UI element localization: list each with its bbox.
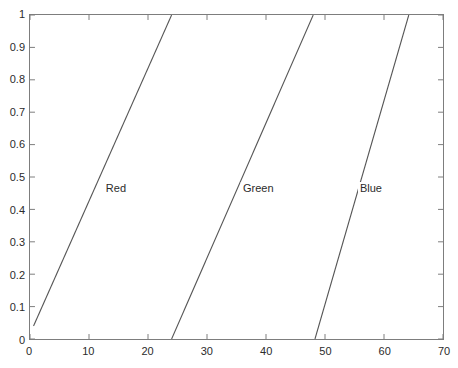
x-tick-label: 60 [379, 345, 391, 357]
x-tick-label: 30 [201, 345, 213, 357]
x-tick-label: 70 [438, 345, 450, 357]
series-label-green: Green [241, 182, 276, 194]
series-lines [34, 15, 409, 339]
y-tick-label: 0.3 [1, 236, 25, 248]
chart-figure: 00.10.20.30.40.50.60.70.80.91 RedGreenBl… [0, 0, 458, 368]
x-tick-label: 0 [26, 345, 32, 357]
y-tick-label: 0.8 [1, 73, 25, 85]
y-tick-label: 0.2 [1, 269, 25, 281]
chart-title [0, 0, 458, 4]
series-line-red [34, 15, 172, 326]
series-label-blue: Blue [358, 182, 384, 194]
series-label-red: Red [104, 182, 128, 194]
y-tick-label: 0.1 [1, 301, 25, 313]
y-tick-label: 0 [1, 334, 25, 346]
y-tick-label: 0.5 [1, 171, 25, 183]
x-tick-label: 10 [82, 345, 94, 357]
y-tick-label: 1 [1, 8, 25, 20]
series-line-green [172, 15, 314, 339]
x-tick-label: 40 [260, 345, 272, 357]
x-tick-label: 20 [141, 345, 153, 357]
y-tick-label: 0.4 [1, 204, 25, 216]
x-tick-label: 50 [319, 345, 331, 357]
tick-marks [30, 15, 443, 339]
plot-canvas [30, 15, 443, 339]
plot-area: RedGreenBlue [29, 14, 444, 340]
y-tick-label: 0.6 [1, 138, 25, 150]
y-axis-tick-labels: 00.10.20.30.40.50.60.70.80.91 [0, 14, 25, 340]
series-line-blue [315, 15, 409, 339]
y-tick-label: 0.9 [1, 41, 25, 53]
x-axis-tick-labels: 010203040506070 [29, 345, 444, 361]
y-tick-label: 0.7 [1, 106, 25, 118]
